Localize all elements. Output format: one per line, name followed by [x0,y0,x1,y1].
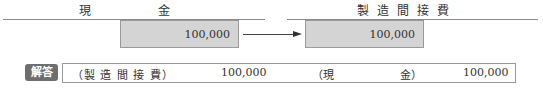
answer-badge: 解答 [25,64,58,81]
left-account-title-char: 現 [79,1,91,18]
right-account-title-char: 接 [417,1,429,18]
right-account-title-char: 間 [397,1,409,18]
right-account-title-char: 製 [357,1,369,18]
left-account-credit-amount: 100,000 [185,28,231,41]
answer-credit-amount: 100,000 [463,66,509,79]
right-account-title-char: 費 [437,1,449,18]
right-account-title-char: 造 [377,1,389,18]
answer-debit-account: （製 造 間 接 費） [72,66,174,82]
right-account-debit-amount: 100,000 [370,28,416,41]
right-account-debit-box: 100,000 [305,20,424,48]
answer-credit-account-close: 金） [400,66,422,82]
left-account-title-2: 金 [158,1,170,18]
left-account-title: 現 [79,1,91,18]
answer-debit-amount: 100,000 [221,66,267,79]
right-arrow-icon [243,34,294,35]
answer-credit-account-open: （現 [312,66,334,82]
left-account-title-char: 金 [158,1,170,18]
right-account-title: 製造間接費 [357,1,449,18]
left-account-credit-box: 100,000 [120,20,239,48]
arrow-head-icon [293,31,302,37]
